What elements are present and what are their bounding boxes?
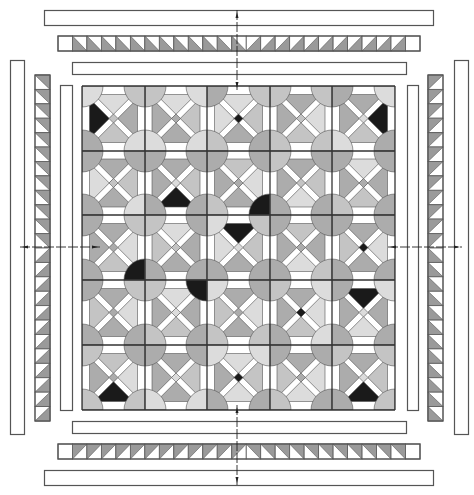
bottom-inner-border xyxy=(73,422,407,434)
left-hst-border xyxy=(35,75,50,421)
right-inner-border xyxy=(408,86,419,411)
top-outer-border xyxy=(45,11,434,26)
hst-end-square xyxy=(58,36,73,51)
quilt-assembly-diagram xyxy=(0,0,474,495)
right-hst-border xyxy=(428,75,443,421)
bottom-outer-border xyxy=(45,471,434,486)
top-inner-border xyxy=(73,63,407,75)
hst-end-square xyxy=(406,444,421,459)
top-hst-border xyxy=(58,36,420,51)
quilt-diagram-canvas xyxy=(0,0,474,495)
hst-end-square xyxy=(58,444,73,459)
left-outer-border xyxy=(11,61,25,435)
hst-end-square xyxy=(406,36,421,51)
bottom-hst-border xyxy=(58,444,420,459)
left-inner-border xyxy=(61,86,73,411)
center-block-grid xyxy=(61,65,416,431)
grid-contents xyxy=(61,65,416,431)
